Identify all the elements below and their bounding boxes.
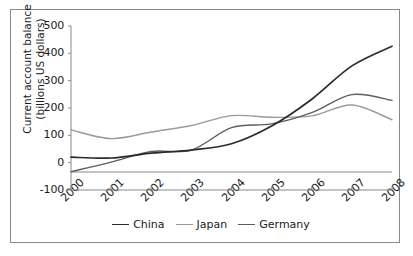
series-line-china [71, 46, 392, 158]
x-axis-ticks [71, 186, 392, 190]
legend-item-china[interactable]: China [112, 219, 164, 230]
legend-item-germany[interactable]: Germany [238, 219, 310, 230]
axis-lines [68, 26, 392, 190]
series-line-japan [71, 105, 392, 139]
legend-line-icon [176, 224, 193, 225]
legend-line-icon [112, 224, 129, 225]
data-series-layer [71, 46, 392, 171]
chart-legend: ChinaJapanGermany [96, 216, 326, 232]
legend-item-japan[interactable]: Japan [176, 219, 228, 230]
legend-label: China [133, 219, 164, 230]
legend-label: Germany [259, 219, 310, 230]
chart-figure: Current account balance (billions US dol… [0, 0, 413, 256]
legend-line-icon [238, 224, 255, 225]
legend-label: Japan [197, 219, 228, 230]
